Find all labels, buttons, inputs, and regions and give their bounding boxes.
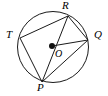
vertex-label-Q: Q: [94, 29, 102, 40]
vertex-label-P: P: [37, 82, 44, 93]
chord-R-Q: [68, 16, 88, 40]
geometry-canvas: [0, 0, 108, 96]
geometry-figure: T R Q P O: [0, 0, 108, 96]
center-label-O: O: [55, 49, 62, 59]
chord-Q-P: [42, 40, 88, 82]
vertex-label-T: T: [6, 29, 12, 40]
vertex-label-R: R: [62, 0, 69, 11]
